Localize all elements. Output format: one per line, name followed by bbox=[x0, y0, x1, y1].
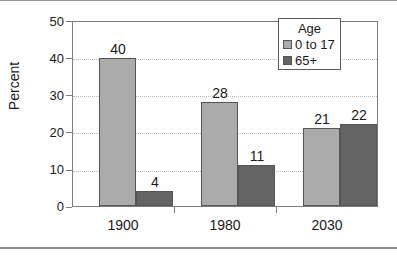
x-tick-mark-2 bbox=[276, 207, 277, 213]
bar-2030-65plus bbox=[340, 124, 377, 206]
y-tick-label-30-text: 30 bbox=[36, 89, 64, 102]
x-tick-mark-1 bbox=[174, 207, 175, 213]
x-axis-label-1900: 1900 bbox=[78, 216, 168, 234]
bar-chart-figure: Percent 50 40 30 20 10 0 40 4 28 11 21 2… bbox=[0, 0, 397, 258]
y-tick-label-10: 10 bbox=[30, 163, 64, 176]
y-tick-label-0: 0 bbox=[30, 200, 64, 213]
bar-1980-0-to-17 bbox=[201, 102, 238, 206]
bar-1900-65plus bbox=[136, 191, 173, 206]
legend-label-0-to-17: 0 to 17 bbox=[295, 37, 335, 52]
bar-value-1900-65plus: 4 bbox=[135, 174, 175, 190]
bar-value-1980-65plus: 11 bbox=[237, 148, 277, 164]
page-bottom-rule bbox=[0, 247, 397, 249]
y-tick-label-30: 30 bbox=[30, 89, 64, 102]
y-tick-label-40-text: 40 bbox=[36, 52, 64, 65]
bar-value-2030-65plus: 22 bbox=[339, 107, 379, 123]
legend-item-0-to-17: 0 to 17 bbox=[279, 36, 340, 52]
y-axis-title: Percent bbox=[6, 50, 22, 122]
y-tick-label-20-text: 20 bbox=[36, 126, 64, 139]
legend-label-65plus: 65+ bbox=[295, 53, 317, 68]
y-tick-label-50-text: 50 bbox=[36, 15, 64, 28]
chart-legend: Age 0 to 17 65+ bbox=[278, 18, 341, 70]
bar-1980-65plus bbox=[238, 165, 275, 206]
bar-value-1980-0-to-17: 28 bbox=[200, 85, 240, 101]
legend-item-65plus: 65+ bbox=[279, 52, 340, 68]
x-axis-label-2030: 2030 bbox=[282, 216, 372, 234]
y-tick-label-0-text: 0 bbox=[36, 200, 64, 213]
bar-value-1900-0-to-17: 40 bbox=[98, 41, 138, 57]
bar-value-2030-0-to-17: 21 bbox=[302, 111, 342, 127]
y-tick-label-40: 40 bbox=[30, 52, 64, 65]
x-axis-label-1980: 1980 bbox=[180, 216, 270, 234]
bar-1900-0-to-17 bbox=[99, 58, 136, 206]
y-tick-mark-0 bbox=[66, 207, 72, 208]
legend-title: Age bbox=[279, 21, 340, 36]
y-tick-label-10-text: 10 bbox=[36, 163, 64, 176]
bar-2030-0-to-17 bbox=[303, 128, 340, 206]
page-top-rule bbox=[0, 0, 397, 1]
y-tick-label-50: 50 bbox=[30, 15, 64, 28]
dark-gray-swatch-icon bbox=[283, 56, 292, 65]
y-tick-label-20: 20 bbox=[30, 126, 64, 139]
light-gray-swatch-icon bbox=[283, 40, 292, 49]
